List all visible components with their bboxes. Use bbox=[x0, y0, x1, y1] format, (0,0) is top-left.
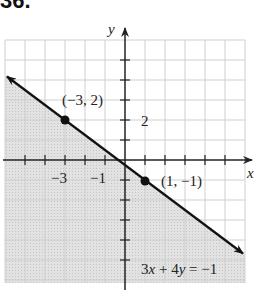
x-axis-label: x bbox=[246, 165, 254, 181]
equation-var-y: y bbox=[177, 261, 186, 277]
point-neg3-2 bbox=[61, 116, 70, 125]
point-label-1-neg1: (1, −1) bbox=[161, 173, 202, 190]
equation-part: = −1 bbox=[185, 261, 217, 277]
point-1-neg1 bbox=[141, 177, 150, 186]
coordinate-plane: y x −3 −1 2 (−3, 2) (1, −1) 3x + 4y = −1 bbox=[0, 0, 254, 292]
equation-part: 3 bbox=[141, 261, 149, 277]
tick-label-neg3: −3 bbox=[51, 170, 67, 186]
y-axis-label: y bbox=[106, 21, 115, 37]
tick-label-neg1: −1 bbox=[90, 170, 106, 186]
equation-label: 3x + 4y = −1 bbox=[141, 261, 217, 277]
tick-label-2: 2 bbox=[141, 113, 149, 129]
equation-part: + 4 bbox=[155, 261, 179, 277]
point-label-neg3-2: (−3, 2) bbox=[62, 92, 103, 109]
